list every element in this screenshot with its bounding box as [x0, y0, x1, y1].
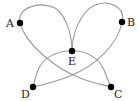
graph-diagram: A B E D C: [0, 0, 139, 101]
edge-e-b: [72, 3, 123, 51]
node-a: [17, 20, 23, 26]
label-d: D: [21, 88, 30, 101]
label-e: E: [68, 55, 76, 68]
label-b: B: [127, 16, 135, 29]
label-a: A: [5, 17, 15, 30]
node-b: [119, 19, 125, 25]
node-e: [69, 48, 75, 54]
label-c: C: [114, 88, 122, 101]
edge-a-e: [20, 5, 72, 51]
node-d: [30, 84, 36, 90]
